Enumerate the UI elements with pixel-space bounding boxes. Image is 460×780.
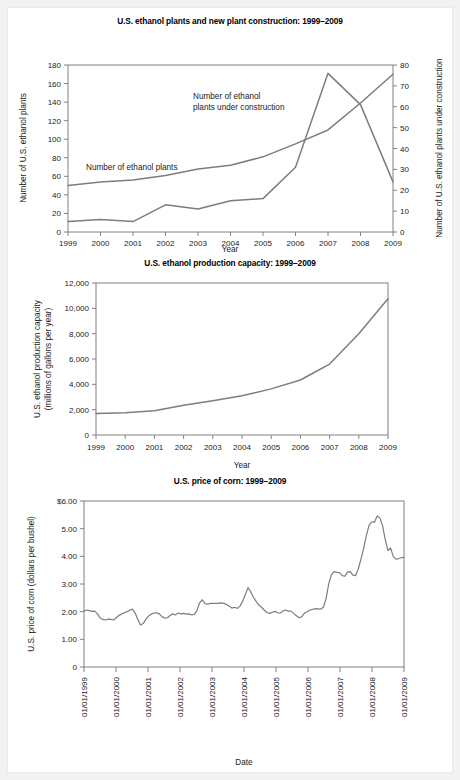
- chart-2-x-tick-label: 2007: [321, 443, 339, 452]
- chart-2-y-tick-label: 12,000: [65, 279, 90, 288]
- chart-1-right-tick-label: 10: [400, 207, 409, 216]
- chart-2-y-tick-label: 4,000: [69, 380, 90, 389]
- chart-2-x-tick-label: 2000: [116, 443, 134, 452]
- chart-2-svg: 02,0004,0006,0008,00010,00012,000 199920…: [8, 269, 452, 471]
- chart-1-x-tick-label: 1999: [59, 239, 77, 248]
- chart-1-svg: 020406080100120140160180 010203040506070…: [8, 27, 452, 255]
- chart-1-left-tick-label: 80: [52, 154, 61, 163]
- chart-2-x-tick-label: 2002: [175, 443, 193, 452]
- chart-3-xlabel: Date: [235, 758, 253, 767]
- chart-1-right-tick-label: 60: [400, 103, 409, 112]
- chart-2-x-tick-label: 2001: [146, 443, 164, 452]
- chart-2-x-tick-label: 1999: [87, 443, 105, 452]
- figure-1-title: U.S. ethanol plants and new plant constr…: [8, 16, 452, 27]
- chart-2-x-tick-label: 2004: [233, 443, 251, 452]
- chart-2-y-axis: 02,0004,0006,0008,00010,00012,000: [65, 279, 96, 440]
- figure-2-plot: 02,0004,0006,0008,00010,00012,000 199920…: [8, 269, 452, 471]
- chart-1-right-tick-label: 20: [400, 186, 409, 195]
- figure-ethanol-capacity: U.S. ethanol production capacity: 1999–2…: [8, 258, 452, 473]
- chart-2-xlabel: Year: [234, 461, 251, 470]
- chart-1-annotation-construction-line1: Number of ethanol: [193, 92, 261, 101]
- chart-1-left-tick-label: 120: [48, 117, 62, 126]
- figure-1-plot: 020406080100120140160180 010203040506070…: [8, 27, 452, 255]
- chart-2-ylabel-line2: (millions of gallons per year): [44, 308, 53, 411]
- chart-1-left-tick-label: 100: [48, 135, 62, 144]
- chart-2-y-tick-label: 6,000: [69, 355, 90, 364]
- chart-3-x-tick-label: 01/01/2000: [112, 676, 121, 717]
- chart-2-x-tick-label: 2008: [350, 443, 368, 452]
- chart-1-right-tick-label: 30: [400, 165, 409, 174]
- chart-1-right-tick-label: 80: [400, 61, 409, 70]
- figure-3-plot: 01.002.003.004.005.00$6.00 01/01/199901/…: [8, 487, 452, 770]
- chart-1-x-tick-label: 2006: [287, 239, 305, 248]
- chart-1-right-tick-label: 0: [400, 228, 405, 237]
- chart-3-x-tick-label: 01/01/2007: [336, 676, 345, 717]
- chart-3-x-tick-label: 01/01/2006: [304, 676, 313, 717]
- chart-1-ylabel-left: Number of U.S. ethanol plants: [19, 93, 28, 203]
- chart-3-x-tick-label: 01/01/2001: [144, 676, 153, 717]
- chart-3-y-axis: 01.002.003.004.005.00$6.00: [57, 497, 84, 672]
- chart-3-y-tick-label: 5.00: [61, 525, 77, 534]
- chart-2-x-axis: 1999200020012002200320042005200620072008…: [87, 435, 397, 452]
- chart-2-ylabel-line1: U.S. ethanol production capacity: [33, 299, 42, 418]
- chart-1-annotation-plants: Number of ethanol plants: [86, 163, 177, 172]
- chart-3-y-tick-label: 3.00: [61, 580, 77, 589]
- chart-1-xlabel: Year: [222, 245, 239, 254]
- chart-2-x-tick-label: 2005: [262, 443, 280, 452]
- chart-1-x-tick-label: 2009: [384, 239, 402, 248]
- chart-3-x-tick-label: 01/01/2003: [208, 676, 217, 717]
- chart-1-left-tick-label: 40: [52, 191, 61, 200]
- chart-3-y-tick-label: 4.00: [61, 552, 77, 561]
- chart-1-left-tick-label: 60: [52, 172, 61, 181]
- chart-2-x-tick-label: 2009: [379, 443, 397, 452]
- chart-3-x-tick-label: 01/01/2005: [272, 676, 281, 717]
- chart-3-y-tick-label: 1.00: [61, 635, 77, 644]
- chart-3-x-tick-label: 01/01/2008: [368, 676, 377, 717]
- figure-3-title: U.S. price of corn: 1999–2009: [8, 476, 452, 487]
- chart-1-ylabel-right: Number of U.S. ethanol plants under cons…: [435, 58, 444, 238]
- chart-1-annotation-construction-line2: plants under construction: [193, 103, 285, 112]
- figure-ethanol-plants: U.S. ethanol plants and new plant constr…: [8, 16, 452, 256]
- chart-3-x-tick-label: 01/01/1999: [80, 676, 89, 717]
- page-root: U.S. ethanol plants and new plant constr…: [0, 0, 460, 780]
- chart-2-y-tick-label: 10,000: [65, 304, 90, 313]
- chart-1-x-tick-label: 2002: [157, 239, 175, 248]
- chart-3-svg: 01.002.003.004.005.00$6.00 01/01/199901/…: [8, 487, 452, 770]
- chart-1-right-tick-label: 40: [400, 145, 409, 154]
- chart-2-x-tick-label: 2006: [292, 443, 310, 452]
- chart-2-y-tick-label: 8,000: [69, 330, 90, 339]
- document-sheet: U.S. ethanol plants and new plant constr…: [8, 8, 452, 772]
- chart-1-left-tick-label: 180: [48, 61, 62, 70]
- chart-1-x-tick-label: 2003: [189, 239, 207, 248]
- chart-3-y-tick-label: 0: [73, 663, 78, 672]
- chart-3-x-tick-label: 01/01/2004: [240, 676, 249, 717]
- figure-2-title: U.S. ethanol production capacity: 1999–2…: [8, 258, 452, 269]
- chart-1-left-tick-label: 140: [48, 98, 62, 107]
- chart-3-ylabel: U.S. price of corn (dollars per bushel): [27, 516, 36, 652]
- chart-1-right-tick-label: 50: [400, 124, 409, 133]
- chart-2-series-capacity: [96, 299, 388, 414]
- chart-3-y-tick-label: 2.00: [61, 608, 77, 617]
- chart-1-x-tick-label: 2005: [254, 239, 272, 248]
- chart-3-x-tick-label: 01/01/2009: [400, 676, 409, 717]
- chart-1-x-tick-label: 2001: [124, 239, 142, 248]
- chart-1-right-axis: 01020304050607080: [393, 61, 409, 237]
- chart-2-x-tick-label: 2003: [204, 443, 222, 452]
- chart-2-y-tick-label: 0: [85, 431, 90, 440]
- chart-3-y-tick-label: $6.00: [57, 497, 78, 506]
- chart-3-x-tick-label: 01/01/2002: [176, 676, 185, 717]
- chart-3-x-axis: 01/01/199901/01/200001/01/200101/01/2002…: [80, 667, 409, 717]
- chart-1-left-tick-label: 0: [57, 228, 62, 237]
- chart-1-x-tick-label: 2000: [92, 239, 110, 248]
- chart-2-y-tick-label: 2,000: [69, 406, 90, 415]
- chart-1-right-tick-label: 70: [400, 82, 409, 91]
- chart-3-frame: [84, 501, 404, 667]
- chart-1-left-axis: 020406080100120140160180: [48, 61, 68, 237]
- chart-1-x-tick-label: 2008: [352, 239, 370, 248]
- chart-1-left-tick-label: 20: [52, 209, 61, 218]
- figure-corn-price: U.S. price of corn: 1999–2009 01.002.003…: [8, 476, 452, 772]
- chart-1-left-tick-label: 160: [48, 80, 62, 89]
- chart-3-series-corn-price: [84, 516, 404, 625]
- chart-1-x-tick-label: 2007: [319, 239, 337, 248]
